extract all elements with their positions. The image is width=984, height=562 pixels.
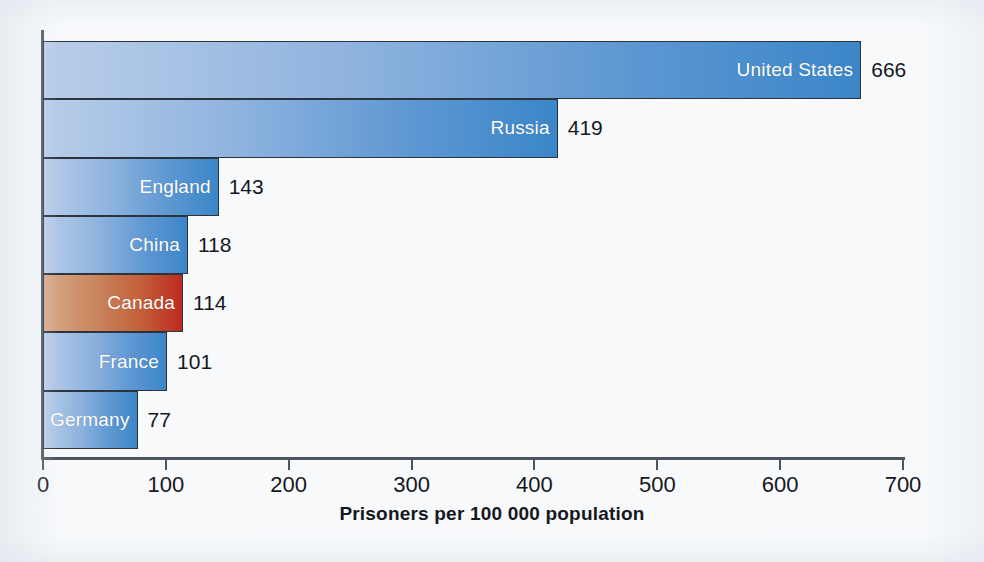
bar-label: United States bbox=[737, 59, 861, 81]
x-axis-line bbox=[41, 457, 905, 460]
bar-france: France bbox=[43, 332, 167, 390]
x-tick-label: 0 bbox=[37, 472, 49, 498]
x-tick-label: 400 bbox=[516, 472, 553, 498]
bar-germany: Germany bbox=[43, 391, 138, 449]
bar-chart: United States 666 Russia 419 England 143… bbox=[0, 0, 984, 562]
x-tick bbox=[656, 459, 658, 470]
bar-label: Germany bbox=[50, 409, 137, 431]
bar-value: 101 bbox=[177, 350, 212, 374]
bar-row: Germany 77 bbox=[43, 391, 943, 449]
x-tick bbox=[165, 459, 167, 470]
bar-label: Russia bbox=[490, 117, 556, 139]
plot-area: United States 666 Russia 419 England 143… bbox=[0, 0, 984, 562]
bar-value: 143 bbox=[229, 175, 264, 199]
bar-row: Canada 114 bbox=[43, 274, 943, 332]
x-tick bbox=[42, 459, 44, 470]
bar-row: England 143 bbox=[43, 158, 943, 216]
x-tick-label: 500 bbox=[639, 472, 676, 498]
bar-series: United States 666 Russia 419 England 143… bbox=[43, 41, 943, 449]
bar-row: France 101 bbox=[43, 332, 943, 390]
x-tick bbox=[411, 459, 413, 470]
bar-label: France bbox=[99, 351, 166, 373]
bar-row: United States 666 bbox=[43, 41, 943, 99]
bar-russia: Russia bbox=[43, 99, 558, 157]
bar-label: China bbox=[129, 234, 187, 256]
bar-value: 118 bbox=[198, 233, 231, 257]
x-tick bbox=[288, 459, 290, 470]
x-tick-label: 700 bbox=[885, 472, 922, 498]
bar-value: 419 bbox=[568, 116, 603, 140]
x-tick bbox=[779, 459, 781, 470]
bar-canada: Canada bbox=[43, 274, 183, 332]
bar-value: 114 bbox=[193, 291, 226, 315]
x-tick-label: 300 bbox=[393, 472, 430, 498]
bar-china: China bbox=[43, 216, 188, 274]
x-tick-label: 200 bbox=[270, 472, 307, 498]
bar-label: Canada bbox=[107, 292, 182, 314]
bar-value: 666 bbox=[871, 58, 906, 82]
bar-england: England bbox=[43, 158, 219, 216]
x-tick bbox=[902, 459, 904, 470]
x-axis-title: Prisoners per 100 000 population bbox=[0, 503, 984, 525]
x-tick bbox=[533, 459, 535, 470]
bar-united-states: United States bbox=[43, 41, 861, 99]
bar-value: 77 bbox=[148, 408, 171, 432]
bar-row: Russia 419 bbox=[43, 99, 943, 157]
x-tick-label: 100 bbox=[147, 472, 184, 498]
bar-row: China 118 bbox=[43, 216, 943, 274]
bar-label: England bbox=[140, 176, 218, 198]
x-tick-label: 600 bbox=[762, 472, 799, 498]
